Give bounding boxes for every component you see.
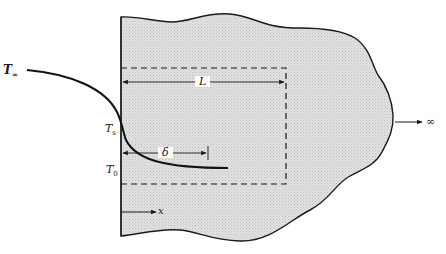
t-zero-label: T0	[106, 164, 118, 178]
x-axis-label: x	[158, 206, 164, 216]
diagram-canvas	[0, 0, 446, 254]
infinity-label: ∞	[426, 116, 435, 127]
diagram-figure: T∞ Ts T0 L δ x ∞	[0, 0, 446, 254]
delta-label: δ	[158, 147, 173, 158]
t-surface-label: Ts	[105, 123, 116, 137]
t-infinity-label: T∞	[3, 64, 18, 78]
length-label: L	[195, 76, 210, 87]
